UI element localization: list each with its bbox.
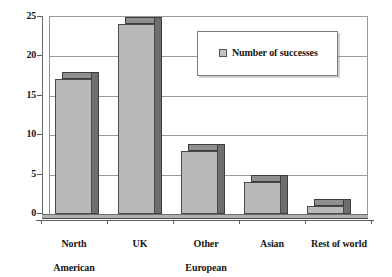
- x-tick-mark-0: [41, 220, 42, 224]
- legend-label: Number of successes: [232, 48, 318, 58]
- x-axis-label-other-european: Other European: [173, 226, 239, 277]
- x-axis-line: [36, 220, 374, 221]
- x-axis-label-line2: American: [41, 262, 107, 274]
- x-tick-mark-3: [239, 220, 240, 224]
- bar-front-face: [181, 151, 218, 214]
- bar-other-european: [181, 144, 225, 214]
- x-tick-mark-4: [305, 220, 306, 224]
- bar-front-face: [244, 182, 281, 214]
- y-tick-label-10: 10: [2, 129, 36, 139]
- bar-front-face: [118, 24, 155, 214]
- y-tick-label-25: 25: [2, 11, 36, 21]
- legend-item-number-of-successes: Number of successes: [219, 48, 318, 58]
- bar-front-face: [307, 206, 344, 214]
- bar-side-face: [91, 72, 99, 214]
- x-axis-label-line2: European: [173, 262, 239, 274]
- x-axis-label-line1: Other: [173, 238, 239, 250]
- x-axis-label-line1: Asian: [239, 238, 305, 250]
- y-tick-label-5: 5: [2, 169, 36, 179]
- x-tick-mark-1: [107, 220, 108, 224]
- legend: Number of successes: [197, 31, 338, 76]
- x-axis-label-line1: Rest of world: [303, 238, 375, 250]
- x-axis-label-line1: North: [41, 238, 107, 250]
- y-tick-label-20: 20: [2, 50, 36, 60]
- y-axis: 25 20 15 10 5 0: [0, 0, 36, 265]
- bar-side-face: [217, 144, 225, 214]
- y-tick-label-15: 15: [2, 90, 36, 100]
- bar-front-face: [55, 79, 92, 214]
- x-axis-label-north-american: North American: [41, 226, 107, 277]
- x-axis-label-uk: UK: [107, 226, 173, 262]
- x-axis-label-rest-of-world: Rest of world: [303, 226, 375, 262]
- y-axis-wall: [43, 16, 50, 214]
- bar-uk: [118, 17, 162, 214]
- x-axis-label-asian: Asian: [239, 226, 305, 262]
- x-tick-mark-5: [371, 220, 372, 224]
- chart-floor: [42, 214, 368, 219]
- bar-north-american: [55, 72, 99, 214]
- x-axis-label-line1: UK: [107, 238, 173, 250]
- x-tick-mark-2: [173, 220, 174, 224]
- y-tick-label-0: 0: [2, 208, 36, 218]
- bar-side-face: [343, 199, 351, 214]
- bar-side-face: [280, 175, 288, 214]
- legend-swatch-icon: [219, 49, 227, 57]
- bar-asian: [244, 175, 288, 214]
- bar-side-face: [154, 17, 162, 214]
- bar-rest-of-world: [307, 199, 351, 214]
